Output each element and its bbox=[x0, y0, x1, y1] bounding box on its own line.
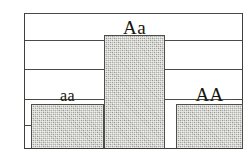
gridline-top bbox=[24, 13, 243, 14]
bar-Aa bbox=[104, 35, 165, 149]
y-axis-left bbox=[24, 13, 25, 149]
bar-aa bbox=[31, 104, 104, 149]
bar-AA bbox=[176, 104, 243, 149]
plot-area: aa Aa AA bbox=[24, 13, 243, 149]
bar-chart: aa Aa AA bbox=[0, 0, 248, 159]
bar-label-Aa: Aa bbox=[104, 18, 165, 37]
bar-label-aa: aa bbox=[31, 88, 104, 104]
bar-label-AA: AA bbox=[176, 85, 243, 104]
x-axis-baseline bbox=[24, 148, 243, 149]
